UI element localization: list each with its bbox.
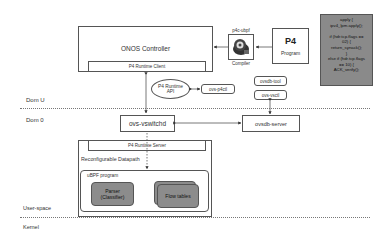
connector-arrows [0,0,390,241]
